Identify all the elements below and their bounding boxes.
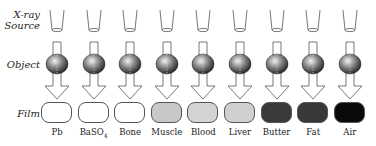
film-exposure-swatch [334, 102, 365, 123]
xray-source-icon [160, 10, 174, 32]
xray-source-icon [87, 10, 101, 32]
row-label-object: Object [0, 59, 40, 70]
material-column: Butter [259, 0, 295, 146]
xray-source-icon [270, 10, 284, 32]
object-sphere-icon [46, 54, 68, 74]
material-column: Fat [295, 0, 331, 146]
xray-source-icon [233, 10, 247, 32]
film-exposure-swatch [297, 102, 328, 123]
film-exposure-swatch [224, 102, 255, 123]
xray-source-icon [343, 10, 357, 32]
source-label: Source [0, 20, 40, 31]
material-column: Air [332, 0, 368, 146]
xray-label: X-ray [0, 9, 40, 20]
film-exposure-swatch [78, 102, 109, 123]
object-sphere-icon [302, 54, 324, 74]
film-exposure-swatch [114, 102, 145, 123]
material-label: Air [326, 127, 374, 137]
xray-source-icon [306, 10, 320, 32]
material-column: BaSO4 [76, 0, 112, 146]
material-column: Muscle [149, 0, 185, 146]
material-column: Blood [185, 0, 221, 146]
object-sphere-icon [339, 54, 361, 74]
film-exposure-swatch [187, 102, 218, 123]
row-label-xray-source: X-ray Source [0, 9, 40, 31]
row-label-film: Film [0, 108, 40, 119]
material-column: Pb [39, 0, 75, 146]
object-sphere-icon [119, 54, 141, 74]
film-exposure-swatch [151, 102, 182, 123]
object-sphere-icon [192, 54, 214, 74]
object-sphere-icon [229, 54, 251, 74]
object-sphere-icon [156, 54, 178, 74]
object-sphere-icon [266, 54, 288, 74]
film-exposure-swatch [261, 102, 292, 123]
film-exposure-swatch [41, 102, 72, 123]
xray-source-icon [50, 10, 64, 32]
material-column: Liver [222, 0, 258, 146]
material-column: Bone [112, 0, 148, 146]
xray-source-icon [196, 10, 210, 32]
object-sphere-icon [83, 54, 105, 74]
xray-source-icon [123, 10, 137, 32]
